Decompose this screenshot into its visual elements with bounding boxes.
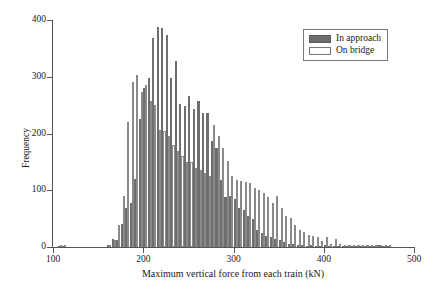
histogram-bar	[58, 246, 60, 247]
histogram-bar	[112, 239, 114, 247]
histogram-bar	[161, 28, 163, 247]
histogram-bar	[143, 88, 145, 247]
histogram-bar	[193, 109, 195, 247]
histogram-bar	[285, 216, 287, 247]
histogram-bar	[306, 246, 308, 247]
histogram-bar	[342, 246, 344, 247]
x-axis-tick	[414, 247, 415, 253]
x-axis-tick-label: 300	[226, 255, 240, 265]
histogram-bar	[387, 246, 389, 247]
histogram-bar	[229, 196, 231, 247]
histogram-bar	[107, 245, 109, 247]
histogram-bar	[220, 180, 222, 247]
histogram-bar	[360, 246, 362, 247]
histogram-bar	[355, 246, 357, 247]
histogram-bar	[256, 230, 258, 247]
histogram-bar	[364, 246, 366, 247]
histogram-bar	[234, 199, 236, 247]
histogram-bar	[247, 216, 249, 247]
histogram-bar	[319, 246, 321, 247]
legend-item-in-approach: In approach	[309, 33, 381, 45]
x-axis-tick-label: 500	[407, 255, 421, 265]
histogram-bar	[64, 245, 66, 247]
x-axis-tick-label: 400	[317, 255, 331, 265]
x-axis-tick	[324, 247, 325, 253]
histogram-bar	[373, 246, 375, 247]
y-axis-tick-label: 100	[32, 186, 46, 196]
histogram-bar	[125, 208, 127, 247]
histogram-figure: Frequency 0100200300400 100200300400500 …	[0, 0, 437, 296]
histogram-bar	[121, 224, 123, 247]
histogram-bar	[197, 101, 199, 247]
histogram-bar	[211, 141, 213, 247]
y-axis-tick-label: 200	[32, 129, 46, 139]
histogram-bar	[294, 225, 296, 247]
histogram-bar	[206, 113, 208, 248]
histogram-bar	[315, 246, 317, 247]
histogram-bar	[369, 246, 371, 247]
histogram-bar	[265, 236, 267, 247]
y-axis-tick-label: 0	[41, 242, 46, 252]
legend-label-on-bridge: On bridge	[336, 46, 374, 56]
x-axis-tick	[143, 247, 144, 253]
histogram-bar	[333, 246, 335, 247]
histogram-bar	[281, 208, 283, 247]
y-axis-tick-label: 400	[32, 15, 46, 25]
histogram-bar	[215, 148, 217, 247]
histogram-bar	[310, 245, 312, 247]
histogram-bar	[62, 246, 64, 247]
histogram-bar	[139, 119, 141, 247]
histogram-bar	[252, 219, 254, 247]
histogram-bar	[261, 233, 263, 247]
chart-legend: In approach On bridge	[303, 29, 388, 61]
histogram-bar	[303, 232, 305, 247]
histogram-bar	[170, 78, 172, 247]
legend-swatch-in-approach	[309, 35, 331, 43]
histogram-bar	[346, 246, 348, 247]
x-axis-title: Maximum vertical force from each train (…	[52, 268, 414, 279]
histogram-bar	[188, 96, 190, 247]
y-axis-tick-label: 300	[32, 72, 46, 82]
histogram-bar	[290, 218, 292, 248]
histogram-bar	[243, 210, 245, 247]
histogram-bar	[288, 244, 290, 247]
legend-swatch-on-bridge	[309, 47, 331, 55]
y-axis-title: Frequency	[21, 128, 31, 168]
x-axis-tick-label: 200	[136, 255, 150, 265]
y-axis-tick	[47, 134, 53, 135]
legend-item-on-bridge: On bridge	[309, 45, 381, 57]
histogram-bar	[157, 27, 159, 247]
histogram-bar	[324, 245, 326, 247]
histogram-bar	[148, 78, 150, 247]
histogram-bar	[270, 237, 272, 247]
histogram-bar	[152, 38, 154, 247]
x-axis-tick	[234, 247, 235, 253]
histogram-bar	[130, 203, 132, 247]
x-axis-tick	[53, 247, 54, 253]
histogram-bar	[274, 239, 276, 247]
histogram-bar	[297, 245, 299, 247]
histogram-bar	[382, 246, 384, 247]
y-axis-tick	[47, 190, 53, 191]
histogram-bar	[328, 246, 330, 247]
histogram-bar	[337, 246, 339, 247]
histogram-bar	[351, 246, 353, 247]
histogram-bar	[202, 113, 204, 247]
histogram-bar	[175, 61, 177, 247]
y-axis-tick	[47, 20, 53, 21]
histogram-bar	[116, 240, 118, 247]
histogram-bar	[238, 208, 240, 247]
histogram-bar	[166, 35, 168, 247]
histogram-bar	[224, 197, 226, 247]
legend-label-in-approach: In approach	[336, 34, 381, 44]
histogram-bar	[279, 240, 281, 247]
histogram-bar	[283, 242, 285, 247]
histogram-bar	[378, 245, 380, 247]
histogram-bar	[179, 104, 181, 247]
histogram-bar	[301, 245, 303, 247]
histogram-bar	[134, 179, 136, 247]
histogram-bar	[389, 245, 391, 247]
histogram-bar	[184, 106, 186, 247]
x-axis-tick-label: 100	[46, 255, 60, 265]
histogram-bar	[292, 244, 294, 247]
